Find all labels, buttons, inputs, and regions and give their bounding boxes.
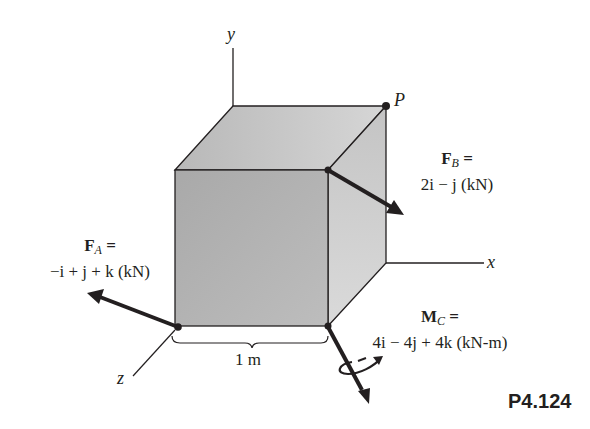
point-p-label: P <box>394 90 405 111</box>
dimension-label: 1 m <box>235 350 261 370</box>
force-fa-label: FA = −i + j + k (kN) <box>20 235 180 282</box>
cube-diagram <box>0 0 590 429</box>
force-fa-arrow <box>87 289 178 327</box>
moment-mc-symbol: M <box>421 307 437 326</box>
force-fb-equals: = <box>463 149 473 168</box>
moment-mc-label: MC = 4i − 4j + 4k (kN-m) <box>340 306 540 353</box>
force-fa-equals: = <box>106 236 116 255</box>
z-axis-label: z <box>117 368 124 389</box>
point-p-marker <box>382 102 390 110</box>
figure-number: P4.124 <box>508 390 571 413</box>
y-axis-label: y <box>227 24 235 45</box>
force-fb-subscript: B <box>452 156 459 170</box>
z-axis <box>133 330 175 376</box>
force-fa-expression: −i + j + k (kN) <box>20 261 180 282</box>
cube-front-face <box>175 170 328 326</box>
moment-mc-subscript: C <box>437 314 445 328</box>
force-fa-subscript: A <box>95 243 102 257</box>
x-axis-label: x <box>487 252 495 273</box>
dimension-brace <box>172 336 328 348</box>
force-fa-symbol: F <box>84 236 94 255</box>
force-fb-label: FB = 2i − j (kN) <box>392 148 522 195</box>
moment-mc-expression: 4i − 4j + 4k (kN-m) <box>340 332 540 353</box>
moment-mc-equals: = <box>449 307 459 326</box>
force-fb-symbol: F <box>441 149 451 168</box>
force-fb-expression: 2i − j (kN) <box>392 174 522 195</box>
